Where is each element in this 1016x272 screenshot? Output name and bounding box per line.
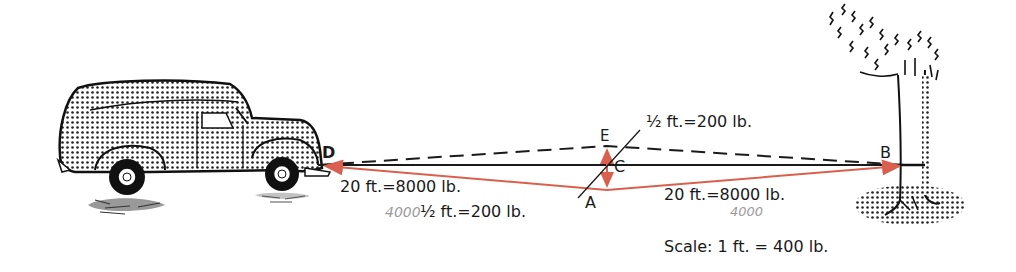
- tree-illustration: [830, 4, 965, 225]
- point-e-label: E: [600, 127, 609, 145]
- handwritten-note-left: 4000: [385, 204, 421, 220]
- left-vector-label: 20 ft.=8000 lb.: [340, 177, 461, 196]
- panel-truck-illustration: [58, 81, 330, 214]
- top-half-ft-label: ½ ft.=200 lb.: [646, 112, 752, 131]
- force-diagram: D E C A B ½ ft.=200 lb. 20 ft.=8000 lb. …: [0, 0, 1016, 272]
- point-c-label: C: [614, 157, 625, 176]
- point-d-label: D: [322, 143, 335, 162]
- bottom-half-ft-label: ½ ft.=200 lb.: [420, 202, 526, 221]
- right-vector-label: 20 ft.=8000 lb.: [664, 185, 785, 204]
- handwritten-note-right: 4000: [730, 204, 763, 219]
- point-a-label: A: [585, 193, 596, 212]
- scale-label: Scale: 1 ft. = 400 lb.: [664, 237, 828, 256]
- point-b-label: B: [880, 143, 891, 162]
